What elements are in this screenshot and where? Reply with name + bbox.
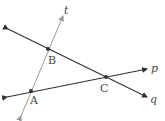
geometry-diagram: t p q B C A bbox=[0, 0, 165, 121]
point-b bbox=[46, 47, 50, 51]
label-t: t bbox=[64, 4, 69, 17]
label-b: B bbox=[48, 54, 56, 67]
line-q bbox=[8, 29, 147, 97]
label-c: C bbox=[100, 82, 108, 95]
label-q: q bbox=[150, 93, 157, 106]
point-a bbox=[29, 89, 33, 93]
label-p: p bbox=[151, 62, 158, 75]
line-t bbox=[21, 16, 63, 116]
label-a: A bbox=[29, 94, 39, 107]
line-p bbox=[7, 69, 147, 97]
point-c bbox=[104, 75, 108, 79]
